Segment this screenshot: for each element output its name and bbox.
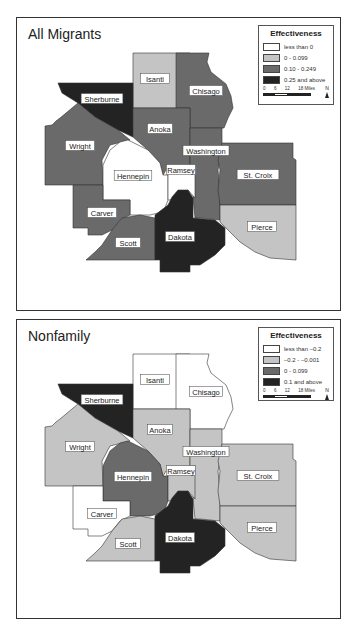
county-label: Hennepin (117, 473, 149, 482)
legend-swatch (263, 345, 280, 353)
north-arrow-glyph (325, 92, 329, 98)
scale-bar-graphic (263, 93, 311, 96)
county-label: Isanti (146, 376, 164, 385)
legend-swatch (263, 54, 280, 62)
scale-tick: 12 (285, 86, 290, 91)
legend-item: –0.2 - –0.001 (263, 354, 329, 365)
scale-tick: 12 (285, 388, 290, 393)
legend-title: Effectiveness (263, 29, 329, 38)
county-label: Carver (91, 510, 114, 519)
county-label: Ramsey (167, 166, 195, 175)
county-label: Dakota (168, 534, 193, 543)
scale-tick: 18 Miles (298, 86, 315, 91)
legend-title: Effectiveness (263, 331, 329, 340)
north-label: N (325, 387, 329, 393)
county-label: Isanti (146, 75, 164, 84)
scale-tick: 18 Miles (298, 388, 315, 393)
legend-label: 0.10 - 0.249 (284, 66, 316, 72)
county-label: Scott (119, 540, 137, 549)
county-label: Washington (186, 448, 225, 457)
legend-item: less than 0 (263, 41, 329, 52)
county-label: Sherburne (84, 396, 119, 405)
county-label: Scott (119, 239, 137, 248)
county-label: St. Croix (244, 472, 273, 481)
legend-nonfamily: Effectiveness less than –0.2 –0.2 - –0.0… (258, 327, 334, 401)
north-arrow-icon: N (325, 86, 329, 98)
legend-item: 0 - 0.099 (263, 365, 329, 376)
legend-label: 0 - 0.099 (284, 55, 308, 61)
legend-label: 0.1 and above (284, 379, 322, 385)
scale-bar-graphic (263, 395, 311, 398)
county-label: Carver (91, 209, 114, 218)
county-label: Anoka (149, 125, 171, 134)
county-label: Wright (69, 142, 91, 151)
legend-swatch (263, 356, 280, 364)
county-label: Ramsey (167, 467, 195, 476)
legend-swatch (263, 367, 280, 375)
north-arrow-glyph (325, 394, 329, 400)
county-label: Wright (69, 443, 91, 452)
county-label: Dakota (168, 233, 193, 242)
legend-swatch (263, 76, 280, 84)
county-label: Hennepin (117, 172, 149, 181)
legend-label: 0 - 0.099 (284, 368, 308, 374)
legend-label: 0.25 and above (284, 77, 325, 83)
legend-item: 0.10 - 0.249 (263, 63, 329, 74)
legend-label: less than 0 (284, 44, 313, 50)
north-label: N (325, 85, 329, 91)
legend-label: less than –0.2 (284, 346, 321, 352)
county-label: St. Croix (244, 171, 273, 180)
county-label: Pierce (251, 223, 272, 232)
legend-swatch (263, 65, 280, 73)
scale-bar: 0 6 12 18 Miles N (263, 388, 329, 402)
scale-tick: 6 (274, 86, 277, 91)
county-label: Pierce (251, 524, 272, 533)
legend-label: –0.2 - –0.001 (284, 357, 319, 363)
county-label: Sherburne (84, 95, 119, 104)
county-pierce (220, 506, 296, 561)
scale-tick: 6 (274, 388, 277, 393)
legend-item: 0.1 and above (263, 376, 329, 387)
legend-item: less than –0.2 (263, 343, 329, 354)
legend-item: 0 - 0.099 (263, 52, 329, 63)
scale-tick: 0 (263, 388, 266, 393)
county-label: Washington (186, 147, 225, 156)
scale-bar: 0 6 12 18 Miles N (263, 86, 329, 100)
scale-ticks: 0 6 12 18 Miles (263, 388, 315, 393)
county-label: Chisago (192, 388, 220, 397)
north-arrow-icon: N (325, 388, 329, 400)
county-label: Anoka (149, 426, 171, 435)
county-label: Chisago (192, 87, 220, 96)
legend-all-migrants: Effectiveness less than 0 0 - 0.099 0.10… (258, 25, 334, 105)
legend-swatch (263, 378, 280, 386)
county-pierce (220, 205, 296, 260)
scale-ticks: 0 6 12 18 Miles (263, 86, 315, 91)
scale-tick: 0 (263, 86, 266, 91)
legend-item: 0.25 and above (263, 74, 329, 85)
legend-swatch (263, 43, 280, 51)
